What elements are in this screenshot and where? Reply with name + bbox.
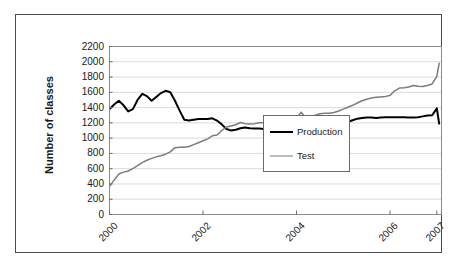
legend-entry-test[interactable]: Test xyxy=(264,149,351,163)
x-axis-tick-label: 2000 xyxy=(89,220,119,250)
legend-line-swatch-production xyxy=(270,127,293,137)
legend-label-production: Production xyxy=(297,127,342,137)
legend-label-test: Test xyxy=(297,151,314,161)
legend-line-swatch-test xyxy=(270,151,293,161)
y-axis-tick-label: 1600 xyxy=(60,87,104,97)
legend-entry-production[interactable]: Production xyxy=(264,125,351,139)
y-axis-tick-label: 800 xyxy=(60,148,104,158)
chart-legend[interactable]: Production Test xyxy=(263,115,350,172)
y-axis-tick-label: 1400 xyxy=(60,103,104,113)
x-axis-tick-label: 2007 xyxy=(416,220,446,250)
x-axis-tick-label: 2002 xyxy=(182,220,212,250)
y-axis-tick-label: 1000 xyxy=(60,133,104,143)
y-axis-tick-label: 400 xyxy=(60,179,104,189)
y-axis-tick-label: 600 xyxy=(60,164,104,174)
chart-figure-frame: Number of classes 2200200018001600140012… xyxy=(15,14,442,253)
y-axis-tick-label: 0 xyxy=(60,210,104,220)
y-axis-tick-label: 200 xyxy=(60,194,104,204)
x-axis-tick-label: 2006 xyxy=(369,220,399,250)
y-axis-tick-label: 1200 xyxy=(60,118,104,128)
x-axis-tick-label: 2004 xyxy=(276,220,306,250)
